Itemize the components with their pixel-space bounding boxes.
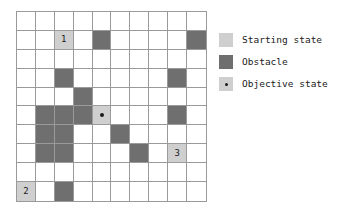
grid-cell: [36, 31, 55, 50]
grid-cell: [168, 182, 187, 201]
objective-dot-icon: [100, 113, 104, 117]
cell-label: 2: [23, 187, 28, 196]
legend: Starting stateObstacleObjective state: [219, 29, 344, 95]
legend-label: Starting state: [242, 35, 322, 45]
obstacle-cell: [187, 31, 206, 50]
obstacle-cell: [130, 144, 149, 163]
grid-cell: [149, 31, 168, 50]
grid-cell: [149, 144, 168, 163]
grid-cell: [111, 31, 130, 50]
grid-cell: [36, 69, 55, 88]
gridworld-canvas: 132: [16, 11, 207, 202]
grid-cell: [111, 182, 130, 201]
obstacle-cell: [74, 106, 93, 125]
grid-cell: [168, 50, 187, 69]
grid-cell: [130, 125, 149, 144]
grid-cell: [130, 69, 149, 88]
legend-item-start: Starting state: [219, 29, 344, 51]
grid-cell: [130, 163, 149, 182]
grid-cell: [17, 144, 36, 163]
grid-cell: [111, 106, 130, 125]
grid-cell: [17, 88, 36, 107]
grid-cell: [36, 12, 55, 31]
starting-state-cell: 3: [168, 144, 187, 163]
starting-state-cell: 1: [55, 31, 74, 50]
grid-cell: [149, 69, 168, 88]
grid-cell: [93, 125, 112, 144]
grid-cell: [187, 182, 206, 201]
grid-cell: [149, 106, 168, 125]
grid-cell: [111, 144, 130, 163]
grid-cell: [17, 31, 36, 50]
obstacle-cell: [36, 125, 55, 144]
obstacle-cell: [93, 31, 112, 50]
objective-state-cell: [93, 106, 112, 125]
grid-cell: [187, 12, 206, 31]
grid-cell: [74, 12, 93, 31]
grid-cell: [168, 88, 187, 107]
grid-cell: [36, 182, 55, 201]
grid-cell: [74, 125, 93, 144]
grid-cell: [187, 88, 206, 107]
cell-label: 1: [61, 35, 66, 44]
grid-cell: [74, 182, 93, 201]
grid-cell: [17, 106, 36, 125]
legend-item-obstacle: Obstacle: [219, 51, 344, 73]
gridworld-figure: 132 Starting stateObstacleObjective stat…: [0, 0, 344, 219]
grid-cell: [17, 50, 36, 69]
grid-cell: [36, 50, 55, 69]
grid-cell: [36, 163, 55, 182]
starting-state-cell: 2: [17, 182, 36, 201]
grid-cell: [149, 182, 168, 201]
grid-cell: [168, 163, 187, 182]
grid-cell: [149, 88, 168, 107]
grid-cell: [93, 163, 112, 182]
grid-cell: [187, 69, 206, 88]
grid-cell: [55, 12, 74, 31]
grid-cell: [93, 12, 112, 31]
start-swatch-icon: [219, 33, 233, 47]
grid-cell: [17, 163, 36, 182]
grid-cell: [74, 144, 93, 163]
grid-cell: [130, 88, 149, 107]
obstacle-cell: [55, 106, 74, 125]
grid-cell: [36, 88, 55, 107]
grid-cell: [130, 50, 149, 69]
grid-cell: [93, 88, 112, 107]
obstacle-cell: [168, 106, 187, 125]
grid-cell: [130, 31, 149, 50]
grid-cell: [17, 12, 36, 31]
grid-cell: [149, 50, 168, 69]
grid-cell: [111, 69, 130, 88]
grid-cell: [187, 163, 206, 182]
grid-cell: [93, 50, 112, 69]
grid-cell: [93, 182, 112, 201]
grid-cell: [187, 50, 206, 69]
grid-cell: [149, 125, 168, 144]
obstacle-cell: [36, 144, 55, 163]
grid-cell: [130, 182, 149, 201]
obstacle-cell: [55, 125, 74, 144]
obstacle-swatch-icon: [219, 55, 233, 69]
obstacle-cell: [168, 69, 187, 88]
grid-cell: [168, 125, 187, 144]
grid-cell: [74, 50, 93, 69]
grid-cell: [187, 125, 206, 144]
grid-cell: [74, 69, 93, 88]
obstacle-cell: [55, 69, 74, 88]
grid-cell: [111, 12, 130, 31]
grid-cell: [93, 69, 112, 88]
grid-cell: [111, 50, 130, 69]
grid-cell: [187, 144, 206, 163]
legend-label: Objective state: [242, 79, 328, 89]
obstacle-cell: [55, 144, 74, 163]
obstacle-cell: [36, 106, 55, 125]
grid-cell: [168, 12, 187, 31]
obstacle-cell: [55, 182, 74, 201]
obstacle-cell: [74, 88, 93, 107]
grid-cell: [187, 106, 206, 125]
grid-cell: [168, 31, 187, 50]
grid-cell: [149, 12, 168, 31]
grid-cell: [17, 125, 36, 144]
grid: 132: [16, 11, 207, 202]
